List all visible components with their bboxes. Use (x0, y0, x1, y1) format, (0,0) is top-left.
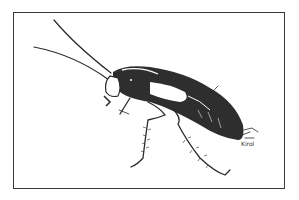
artist-signature: Kirol (241, 140, 254, 147)
antenna-lower (34, 47, 109, 80)
cockroach-body (104, 66, 243, 140)
cockroach-illustration (0, 0, 299, 200)
antenna-upper (54, 20, 111, 73)
